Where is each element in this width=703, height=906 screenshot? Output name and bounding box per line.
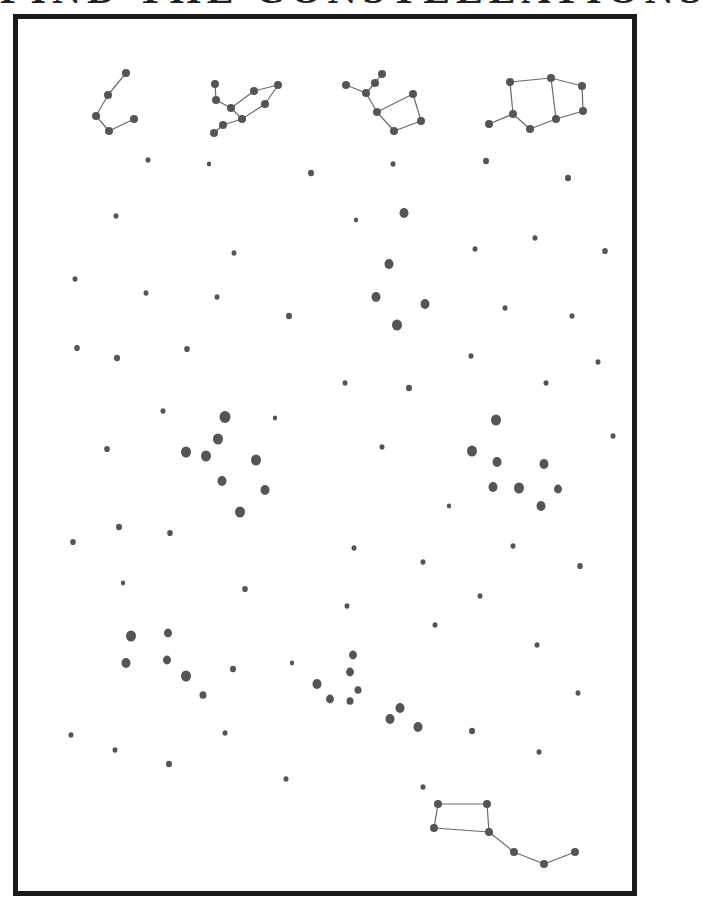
star-dot [200, 691, 207, 699]
constellation-line [108, 73, 126, 95]
star-dot [343, 380, 348, 386]
star-dot [223, 730, 228, 736]
star-dot [506, 78, 514, 86]
star-dot [104, 91, 112, 99]
star-dot [126, 631, 136, 642]
star-dot [284, 776, 289, 782]
star-dot [421, 559, 426, 565]
constellation-line [530, 119, 556, 129]
star-dot [537, 749, 542, 755]
star-dot [215, 294, 220, 300]
star-dot [238, 115, 246, 123]
star-dot [122, 69, 130, 77]
star-dot [433, 622, 438, 628]
star-dot [73, 276, 78, 282]
constellation-key-4 [485, 74, 587, 133]
star-dot [250, 87, 258, 95]
star-dot [352, 545, 357, 551]
star-dot [390, 127, 398, 135]
star-dot [577, 563, 583, 569]
star-dot [345, 603, 350, 609]
star-dot [220, 411, 231, 423]
star-dot [113, 747, 118, 753]
star-dot [386, 714, 395, 724]
star-dot [235, 507, 245, 518]
star-dot [576, 690, 581, 696]
constellation-key-1 [92, 69, 138, 135]
constellation-key-5 [430, 800, 579, 868]
constellation-line [109, 119, 134, 131]
star-dot [166, 761, 172, 768]
star-dot [346, 668, 354, 677]
star-dot [493, 457, 502, 467]
constellation-keys [92, 69, 587, 868]
star-dot [308, 170, 314, 177]
star-dot [469, 353, 474, 359]
star-dot [114, 355, 120, 362]
star-dot [242, 586, 248, 592]
star-dot [469, 728, 475, 735]
star-dot [526, 125, 534, 133]
star-dot [535, 642, 540, 648]
star-dot [354, 218, 358, 223]
star-dot [533, 235, 538, 241]
star-dot [540, 860, 548, 868]
star-dot [478, 593, 483, 599]
star-dot [483, 800, 491, 808]
star-dot [540, 459, 549, 469]
constellation-line [544, 852, 575, 864]
star-dot [232, 250, 237, 256]
star-dot [485, 120, 493, 128]
star-dot [167, 530, 173, 536]
star-dot [544, 380, 549, 386]
star-dot [161, 408, 166, 414]
star-dot [406, 385, 412, 392]
star-dot [122, 658, 131, 668]
star-dot [251, 455, 261, 466]
star-dot [489, 482, 498, 492]
star-dot [219, 121, 227, 129]
star-dot [491, 415, 501, 426]
star-dot [509, 110, 517, 118]
star-dot [286, 313, 292, 320]
star-dot [511, 543, 516, 549]
star-dot [274, 81, 282, 89]
star-dot [514, 483, 524, 494]
star-dot [485, 828, 493, 836]
star-dot [547, 74, 555, 82]
star-dot [430, 824, 438, 832]
star-dot [355, 686, 362, 694]
constellation-line [510, 78, 551, 82]
star-dot [146, 157, 151, 163]
star-dot [372, 292, 381, 302]
star-dot [116, 524, 122, 531]
star-dot [213, 434, 223, 445]
star-dot [227, 104, 235, 112]
star-dot [69, 732, 74, 738]
star-dot [362, 89, 370, 97]
constellation-key-3 [342, 70, 425, 135]
star-dot [273, 416, 277, 421]
star-dot [565, 175, 571, 182]
constellation-line [551, 78, 556, 119]
star-dot [230, 666, 236, 673]
star-dot [212, 96, 220, 104]
constellation-line [556, 111, 583, 119]
star-field [69, 157, 616, 790]
star-dot [578, 82, 586, 90]
star-dot [385, 259, 394, 269]
star-dot [313, 679, 322, 689]
star-dot [409, 90, 417, 98]
star-dot [163, 656, 171, 665]
star-dot [510, 848, 518, 856]
star-dot [483, 158, 489, 165]
star-dot [396, 703, 405, 713]
star-dot [144, 290, 149, 296]
constellation-line [489, 832, 514, 852]
constellation-line [242, 104, 265, 119]
star-dot [261, 485, 270, 495]
star-dot [400, 208, 409, 218]
constellation-line [377, 94, 413, 112]
star-dot [201, 451, 211, 462]
